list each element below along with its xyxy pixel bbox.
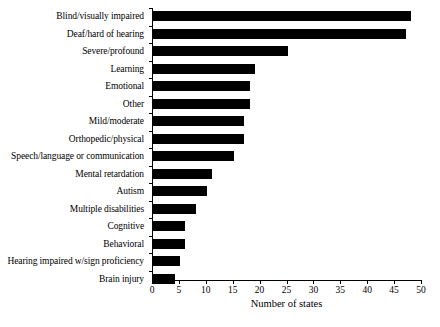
bar — [153, 11, 411, 21]
x-axis-tick-mark — [152, 280, 153, 284]
x-axis-tick-mark — [340, 280, 341, 284]
bar — [153, 151, 234, 161]
y-axis-tick-mark — [149, 113, 153, 114]
x-axis-tick-label: 25 — [272, 285, 302, 295]
y-axis-tick-label: Cognitive — [0, 218, 148, 236]
y-axis-tick-label: Mild/moderate — [0, 113, 148, 131]
y-axis-tick-label: Deaf/hard of hearing — [0, 26, 148, 44]
bar — [153, 239, 185, 249]
x-axis: 05101520253035404550 — [152, 280, 421, 300]
bar-row — [153, 61, 422, 79]
x-axis-tick-label: 0 — [137, 285, 167, 295]
x-axis-tick-mark — [206, 280, 207, 284]
bar-row — [153, 201, 422, 219]
x-axis-tick-label: 35 — [325, 285, 355, 295]
x-axis-tick-mark — [287, 280, 288, 284]
y-axis-tick-label: Learning — [0, 61, 148, 79]
bar-row — [153, 236, 422, 254]
y-axis-category-labels: Blind/visually impairedDeaf/hard of hear… — [0, 8, 148, 280]
x-axis-tick-mark — [367, 280, 368, 284]
y-axis-tick-mark — [149, 183, 153, 184]
y-axis-tick-label: Speech/language or communication — [0, 148, 148, 166]
bar — [153, 46, 288, 56]
y-axis-tick-mark — [149, 61, 153, 62]
bar-row — [153, 183, 422, 201]
bar-row — [153, 253, 422, 271]
bar-row — [153, 96, 422, 114]
y-axis-tick-mark — [149, 253, 153, 254]
x-axis-title: Number of states — [152, 298, 421, 309]
y-axis-tick-mark — [149, 201, 153, 202]
y-axis-tick-label: Blind/visually impaired — [0, 8, 148, 26]
x-axis-tick-label: 45 — [379, 285, 409, 295]
y-axis-tick-mark — [149, 218, 153, 219]
bar-row — [153, 148, 422, 166]
x-axis-tick-label: 15 — [218, 285, 248, 295]
bar — [153, 169, 212, 179]
bar — [153, 134, 244, 144]
bar — [153, 81, 250, 91]
y-axis-tick-mark — [149, 78, 153, 79]
y-axis-tick-mark — [149, 271, 153, 272]
y-axis-tick-mark — [149, 131, 153, 132]
y-axis-tick-label: Autism — [0, 183, 148, 201]
y-axis-tick-mark — [149, 8, 153, 9]
x-axis-tick-mark — [421, 280, 422, 284]
y-axis-tick-label: Multiple disabilities — [0, 201, 148, 219]
bar — [153, 29, 406, 39]
y-axis-tick-label: Severe/profound — [0, 43, 148, 61]
bar — [153, 116, 244, 126]
plot-area — [152, 8, 422, 281]
x-axis-tick-mark — [394, 280, 395, 284]
y-axis-tick-mark — [149, 148, 153, 149]
x-axis-tick-label: 30 — [298, 285, 328, 295]
bar-row — [153, 166, 422, 184]
y-axis-tick-mark — [149, 166, 153, 167]
y-axis-tick-label: Other — [0, 96, 148, 114]
y-axis-tick-mark — [149, 43, 153, 44]
y-axis-tick-mark — [149, 236, 153, 237]
x-axis-tick-mark — [179, 280, 180, 284]
y-axis-tick-label: Behavioral — [0, 236, 148, 254]
x-axis-tick-label: 20 — [245, 285, 275, 295]
bar — [153, 204, 196, 214]
x-axis-tick-label: 50 — [406, 285, 436, 295]
y-axis-tick-label: Hearing impaired w/sign proficiency — [0, 253, 148, 271]
y-axis-tick-label: Brain injury — [0, 271, 148, 289]
bar-row — [153, 26, 422, 44]
bar — [153, 221, 185, 231]
y-axis-tick-label: Orthopedic/physical — [0, 131, 148, 149]
bar-row — [153, 43, 422, 61]
bar-chart: Blind/visually impairedDeaf/hard of hear… — [0, 0, 440, 327]
bars-container — [153, 8, 422, 280]
x-axis-tick-mark — [313, 280, 314, 284]
bar — [153, 256, 180, 266]
bar — [153, 99, 250, 109]
x-axis-tick-label: 5 — [164, 285, 194, 295]
x-axis-tick-mark — [233, 280, 234, 284]
x-axis-tick-label: 10 — [191, 285, 221, 295]
bar-row — [153, 8, 422, 26]
bar — [153, 186, 207, 196]
x-axis-tick-label: 40 — [352, 285, 382, 295]
bar — [153, 64, 255, 74]
y-axis-tick-label: Mental retardation — [0, 166, 148, 184]
bar-row — [153, 131, 422, 149]
bar-row — [153, 218, 422, 236]
x-axis-tick-mark — [260, 280, 261, 284]
bar-row — [153, 113, 422, 131]
y-axis-tick-mark — [149, 96, 153, 97]
y-axis-tick-mark — [149, 26, 153, 27]
y-axis-tick-label: Emotional — [0, 78, 148, 96]
bar-row — [153, 78, 422, 96]
